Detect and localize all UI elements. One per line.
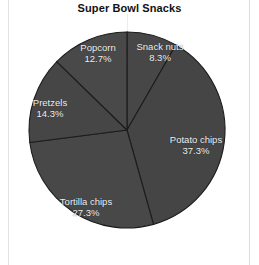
pie-chart-figure: Super Bowl Snacks Snack nuts8.3%Potato c… — [0, 0, 259, 265]
pie-plot-area: Snack nuts8.3%Potato chips37.3%Tortilla … — [0, 0, 259, 265]
pie-svg — [0, 0, 259, 265]
